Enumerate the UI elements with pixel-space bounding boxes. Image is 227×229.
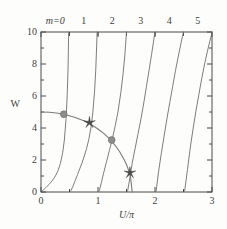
top-label-m1: 1 — [81, 16, 86, 26]
x-tick-label-2: 2 — [153, 196, 158, 206]
constraint-arc — [41, 112, 132, 192]
curve-branch-m-1 — [71, 32, 98, 191]
top-label-m2: 2 — [110, 16, 115, 26]
y-tick-label-10: 10 — [27, 27, 37, 37]
y-tick-label-8: 8 — [32, 59, 37, 69]
curve-branch-m-2 — [99, 32, 126, 191]
y-tick-label-6: 6 — [32, 91, 37, 101]
top-label-m4: 4 — [167, 16, 172, 26]
y-tick-label-4: 4 — [32, 123, 37, 133]
curve-branch-m-3 — [128, 32, 155, 191]
top-label-m0: m=0 — [46, 16, 65, 26]
y-axis-label: W — [11, 99, 20, 109]
curve-branch-m-4 — [156, 32, 183, 191]
x-tick-label-3: 3 — [210, 196, 215, 206]
chart-figure: W U/π 0 2 4 6 8 10 0 1 2 3 m=0 1 2 3 4 5 — [0, 0, 227, 229]
y-tick-label-0: 0 — [32, 187, 37, 197]
curve-branch-m-5 — [185, 32, 212, 191]
x-axis-label: U/π — [119, 210, 134, 220]
top-label-m3: 3 — [138, 16, 143, 26]
marker-circle-0 — [60, 111, 67, 118]
top-label-m5: 5 — [195, 16, 200, 26]
x-tick-label-1: 1 — [96, 196, 101, 206]
solution-markers — [60, 111, 135, 178]
x-tick-label-0: 0 — [39, 196, 44, 206]
marker-circle-2 — [108, 137, 115, 144]
curve-constraint-arc — [41, 112, 132, 192]
y-tick-label-2: 2 — [32, 155, 37, 165]
